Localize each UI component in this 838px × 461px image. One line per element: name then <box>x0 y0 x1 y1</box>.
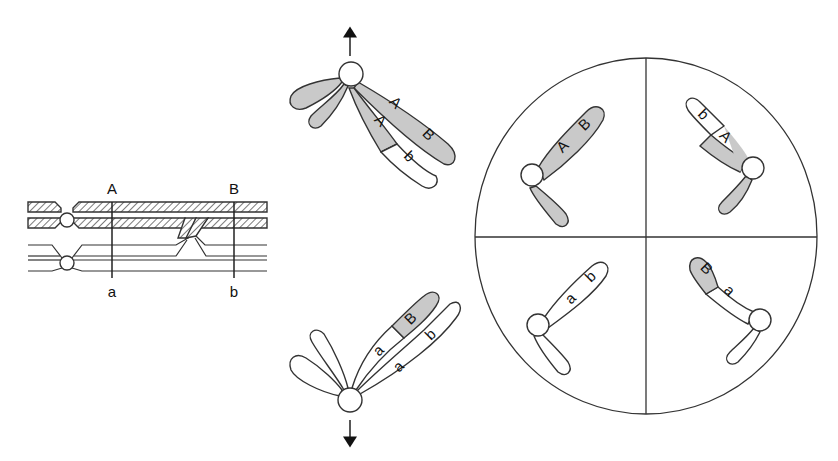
centromere <box>339 62 363 86</box>
centromere-maternal <box>60 256 74 270</box>
gamete-bottom-right: B a <box>690 258 771 364</box>
anaphase-top: A B A b <box>290 32 455 188</box>
label-A: A <box>107 180 117 197</box>
centromere <box>338 388 362 412</box>
paternal-chromatid-1 <box>28 202 267 212</box>
gametes-circle: A B b A a b B a <box>475 58 817 414</box>
label-a: a <box>108 283 117 300</box>
crossover-panel: A B a b <box>28 180 267 300</box>
gamete-top-right: b A <box>686 98 764 214</box>
centromere-paternal <box>60 213 74 227</box>
gamete-top-left: A B <box>521 107 604 226</box>
gamete-bottom-left: a b <box>527 262 608 374</box>
anaphase-bottom: a B a b <box>290 292 460 442</box>
crossing-over-diagram: A B a b A B A b a B a b <box>0 0 838 461</box>
label-B: B <box>229 180 239 197</box>
label-b: b <box>230 283 238 300</box>
